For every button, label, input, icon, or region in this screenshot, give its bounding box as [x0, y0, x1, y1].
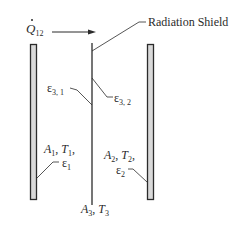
- epsilon-2-leader: [128, 169, 147, 182]
- epsilon-3-2-label: ε3, 2: [114, 92, 131, 107]
- epsilon-3-2-leader: [92, 78, 113, 97]
- epsilon-subscript: 2: [121, 170, 125, 179]
- separator: ,: [55, 142, 58, 156]
- epsilon-subscript: 1: [67, 163, 71, 172]
- epsilon-1-label: ε1: [62, 157, 71, 172]
- surface-3-props-label: A3, T3: [81, 203, 109, 218]
- plate-2: [148, 45, 154, 200]
- separator: ,: [92, 202, 95, 216]
- heat-flow-arrow: [52, 30, 96, 35]
- radiation-shield-diagram: Q12 Radiation Shield ε3, 1 ε3, 2 A1, T1,…: [0, 0, 238, 226]
- separator: ,: [115, 148, 118, 162]
- radiation-shield-label: Radiation Shield: [148, 16, 228, 28]
- plate-1: [31, 45, 37, 200]
- heat-flow-subscript: 12: [35, 29, 43, 38]
- surface-1-props-label: A1, T1,: [44, 143, 75, 158]
- heat-flow-symbol: Q: [26, 22, 35, 35]
- heat-flow-label: Q12: [26, 22, 43, 38]
- epsilon-1-leader: [37, 162, 59, 178]
- epsilon-3-1-label: ε3, 1: [47, 82, 64, 97]
- separator: ,: [72, 142, 75, 156]
- epsilon-subscript: 3, 1: [52, 88, 64, 97]
- separator: ,: [132, 148, 135, 162]
- radiation-shield-leader: [92, 22, 146, 51]
- temp-subscript: 3: [105, 209, 109, 218]
- epsilon-subscript: 3, 2: [119, 98, 131, 107]
- epsilon-2-label: ε2: [116, 164, 125, 179]
- epsilon-3-1-leader: [70, 88, 92, 105]
- surface-2-props-label: A2, T2,: [104, 149, 135, 164]
